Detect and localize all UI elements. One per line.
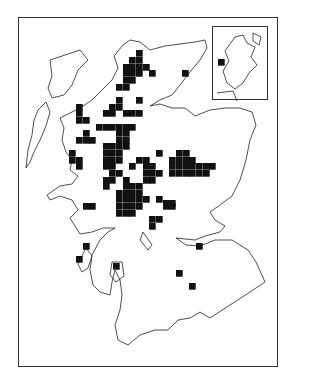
occurrence-square <box>103 143 110 150</box>
occurrence-square <box>123 137 130 144</box>
occurrence-square <box>129 57 136 64</box>
occurrence-square <box>69 150 76 157</box>
occurrence-square <box>116 143 123 150</box>
occurrence-square <box>143 163 150 170</box>
occurrence-square <box>209 163 216 170</box>
occurrence-square <box>76 117 83 124</box>
occurrence-square <box>136 70 143 77</box>
occurrence-square <box>149 170 156 177</box>
inset-map-frame <box>212 26 268 100</box>
occurrence-square <box>203 163 210 170</box>
occurrence-square <box>89 203 96 210</box>
occurrence-square <box>136 110 143 117</box>
occurrence-square <box>149 163 156 170</box>
occurrence-square <box>109 104 116 111</box>
occurrence-square <box>103 177 110 184</box>
occurrence-square <box>129 203 136 210</box>
occurrence-square <box>136 183 143 190</box>
inset-occurrence-square <box>218 59 225 66</box>
occurrence-square <box>149 216 156 223</box>
occurrence-square <box>89 137 96 144</box>
occurrence-square <box>163 203 170 210</box>
occurrence-square <box>156 196 163 203</box>
occurrence-square <box>136 157 143 164</box>
occurrence-square <box>189 157 196 164</box>
occurrence-square <box>176 163 183 170</box>
occurrence-square <box>129 70 136 77</box>
occurrence-square <box>196 243 203 250</box>
occurrence-square <box>76 163 83 170</box>
occurrence-square <box>189 163 196 170</box>
occurrence-square <box>116 170 123 177</box>
occurrence-square <box>129 64 136 71</box>
occurrence-square <box>156 216 163 223</box>
occurrence-square <box>76 110 83 117</box>
occurrence-square <box>169 203 176 210</box>
occurrence-square <box>76 157 83 164</box>
occurrence-square <box>96 124 103 131</box>
occurrence-square <box>129 124 136 131</box>
occurrence-square <box>182 70 189 77</box>
occurrence-square <box>116 203 123 210</box>
occurrence-square <box>103 157 110 164</box>
occurrence-square <box>189 170 196 177</box>
occurrence-square <box>109 177 116 184</box>
occurrence-square <box>149 223 156 230</box>
occurrence-square <box>156 150 163 157</box>
occurrence-square <box>103 183 110 190</box>
occurrence-square <box>116 124 123 131</box>
occurrence-square <box>189 283 196 290</box>
occurrence-square <box>143 64 150 71</box>
occurrence-square <box>129 196 136 203</box>
occurrence-square <box>149 70 156 77</box>
occurrence-square <box>116 137 123 144</box>
occurrence-square <box>183 163 190 170</box>
occurrence-square <box>123 203 130 210</box>
occurrence-square <box>103 110 110 117</box>
occurrence-square <box>123 183 130 190</box>
occurrence-square <box>103 163 110 170</box>
occurrence-square <box>83 130 90 137</box>
occurrence-square <box>116 84 123 91</box>
occurrence-square <box>143 196 150 203</box>
occurrence-square <box>116 150 123 157</box>
inset-map <box>213 27 269 101</box>
occurrence-square <box>109 150 116 157</box>
occurrence-square <box>109 110 116 117</box>
occurrence-square <box>143 170 150 177</box>
occurrence-square <box>129 183 136 190</box>
occurrence-square <box>196 170 203 177</box>
occurrence-square <box>129 77 136 84</box>
occurrence-square <box>83 137 90 144</box>
occurrence-square <box>129 210 136 217</box>
occurrence-square <box>183 170 190 177</box>
occurrence-square <box>169 157 176 164</box>
occurrence-square <box>183 157 190 164</box>
occurrence-square <box>169 170 176 177</box>
inset-mainland-edge <box>217 91 237 101</box>
occurrence-square <box>76 256 83 263</box>
occurrence-square <box>109 124 116 131</box>
occurrence-square <box>116 196 123 203</box>
occurrence-square <box>123 130 130 137</box>
occurrence-square <box>196 163 203 170</box>
occurrence-square <box>176 170 183 177</box>
occurrence-square <box>116 97 123 104</box>
occurrence-square <box>123 177 130 184</box>
occurrence-square <box>123 110 130 117</box>
occurrence-square <box>116 157 123 164</box>
occurrence-square <box>156 170 163 177</box>
occurrence-square <box>116 190 123 197</box>
occurrence-square <box>69 157 76 164</box>
occurrence-square <box>123 210 130 217</box>
occurrence-square <box>103 124 110 131</box>
occurrence-square <box>176 150 183 157</box>
occurrence-square <box>123 124 130 131</box>
inset-island <box>253 33 261 45</box>
occurrence-square <box>109 143 116 150</box>
occurrence-square <box>129 110 136 117</box>
occurrence-square <box>176 157 183 164</box>
occurrence-square <box>129 163 136 170</box>
occurrence-square <box>83 117 90 124</box>
occurrence-square <box>143 177 150 184</box>
